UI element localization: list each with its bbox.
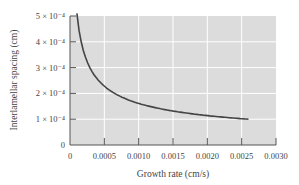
chart: 01 × 10⁻⁴2 × 10⁻⁴3 × 10⁻⁴4 × 10⁻⁴5 × 10⁻… [0,0,299,185]
svg-text:0.0030: 0.0030 [264,151,287,161]
svg-text:3 × 10⁻⁴: 3 × 10⁻⁴ [36,63,65,73]
svg-text:2 × 10⁻⁴: 2 × 10⁻⁴ [36,88,65,98]
svg-text:5 × 10⁻⁴: 5 × 10⁻⁴ [36,11,65,21]
svg-text:0.0010: 0.0010 [127,151,150,161]
svg-text:0.0020: 0.0020 [196,151,219,161]
y-tick-labels: 01 × 10⁻⁴2 × 10⁻⁴3 × 10⁻⁴4 × 10⁻⁴5 × 10⁻… [36,11,65,150]
svg-text:1 × 10⁻⁴: 1 × 10⁻⁴ [36,114,65,124]
svg-text:0.0025: 0.0025 [230,151,253,161]
x-axis-label: Growth rate (cm/s) [137,169,209,180]
svg-text:4 × 10⁻⁴: 4 × 10⁻⁴ [36,37,65,47]
svg-text:0: 0 [68,151,72,161]
svg-text:0.0005: 0.0005 [93,151,116,161]
y-axis-label: Interlamellar spacing (cm) [9,30,20,131]
svg-text:0: 0 [61,140,65,150]
x-tick-labels: 00.00050.00100.00150.00200.00250.0030 [68,151,288,161]
svg-text:0.0015: 0.0015 [161,151,184,161]
